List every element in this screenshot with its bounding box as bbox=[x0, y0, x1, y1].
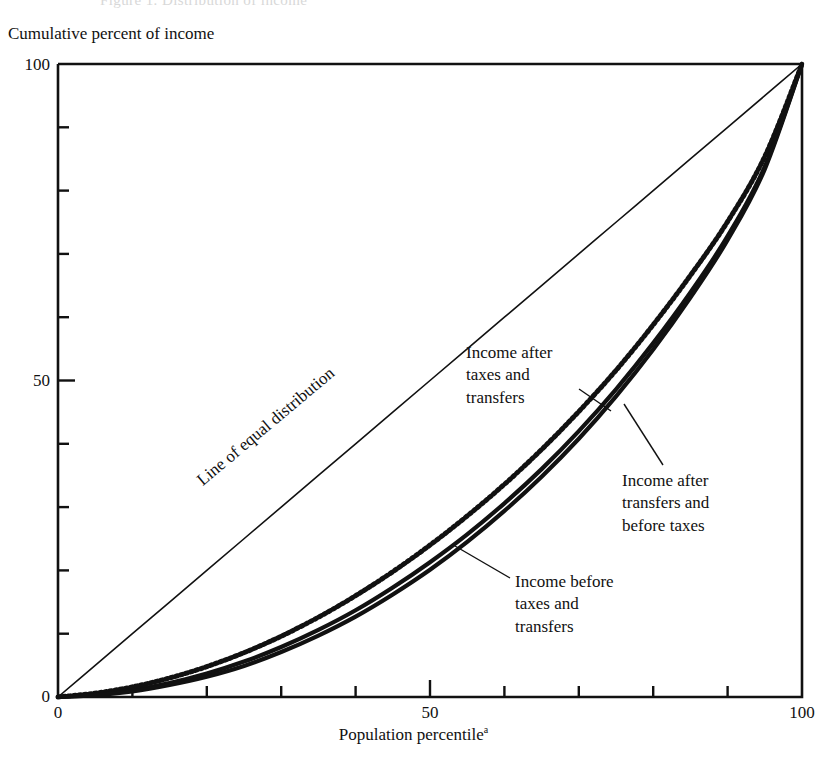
plot-canvas bbox=[0, 0, 827, 760]
annotation-income-before-taxes-and-transfers: Income before taxes and transfers bbox=[515, 571, 614, 638]
leader-line-before-taxes-and-transfers bbox=[455, 546, 510, 578]
curves-group bbox=[58, 64, 802, 697]
x-tick-label-100: 100 bbox=[772, 703, 827, 723]
x-axis-title-text: Population percentile bbox=[339, 725, 484, 744]
x-tick-label-0: 0 bbox=[28, 703, 88, 723]
x-tick-label-50: 50 bbox=[400, 703, 460, 723]
y-tick-label-50: 50 bbox=[2, 371, 50, 391]
x-axis-title: Population percentilea bbox=[0, 724, 827, 745]
leader-line-after-transfers-before-taxes bbox=[624, 404, 663, 465]
curve-line-of-equal-distribution bbox=[58, 64, 802, 697]
annotation-income-after-transfers-before-taxes: Income after transfers and before taxes bbox=[622, 470, 709, 537]
x-axis-title-footnote-marker: a bbox=[484, 724, 488, 735]
annotation-income-after-taxes-and-transfers: Income after taxes and transfers bbox=[466, 342, 552, 409]
y-tick-label-100: 100 bbox=[2, 55, 50, 75]
y-axis-title: Cumulative percent of income bbox=[8, 24, 214, 44]
lorenz-curve-figure: Figure 1. Distribution of income Cumulat… bbox=[0, 0, 827, 760]
scan-artifact-text: Figure 1. Distribution of income bbox=[100, 0, 307, 9]
